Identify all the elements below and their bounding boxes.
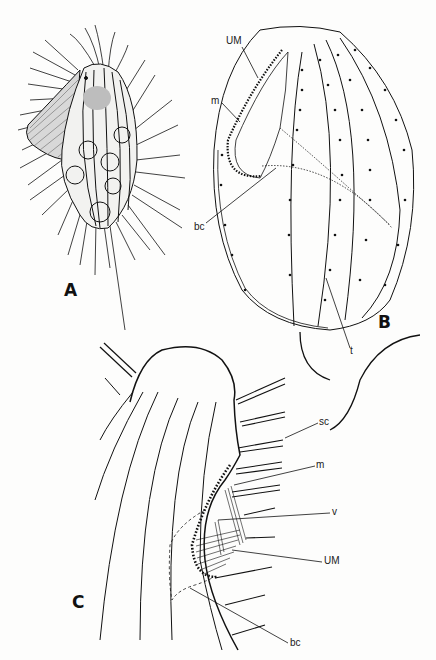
label-b-buccal-cavity: bc (194, 222, 205, 232)
label-c-buccal-cavity: bc (290, 638, 301, 648)
panel-a-drawing (18, 25, 185, 330)
figure-canvas: A B C UM m bc t sc m v UM bc (0, 0, 436, 660)
label-b-membranelles: m (211, 96, 219, 106)
label-c-v: v (332, 507, 337, 517)
panel-c-drawing (95, 343, 330, 650)
label-c-undulating-membrane: UM (324, 556, 340, 566)
label-c-membranelles: m (316, 460, 324, 470)
label-b-t: t (350, 346, 353, 356)
panel-label-a: A (64, 282, 77, 299)
panel-label-b: B (378, 314, 391, 331)
panel-b-drawing (206, 26, 420, 430)
label-c-somatic-cilia: sc (319, 417, 329, 427)
label-b-undulating-membrane: UM (226, 36, 242, 46)
panel-label-c: C (72, 594, 84, 611)
